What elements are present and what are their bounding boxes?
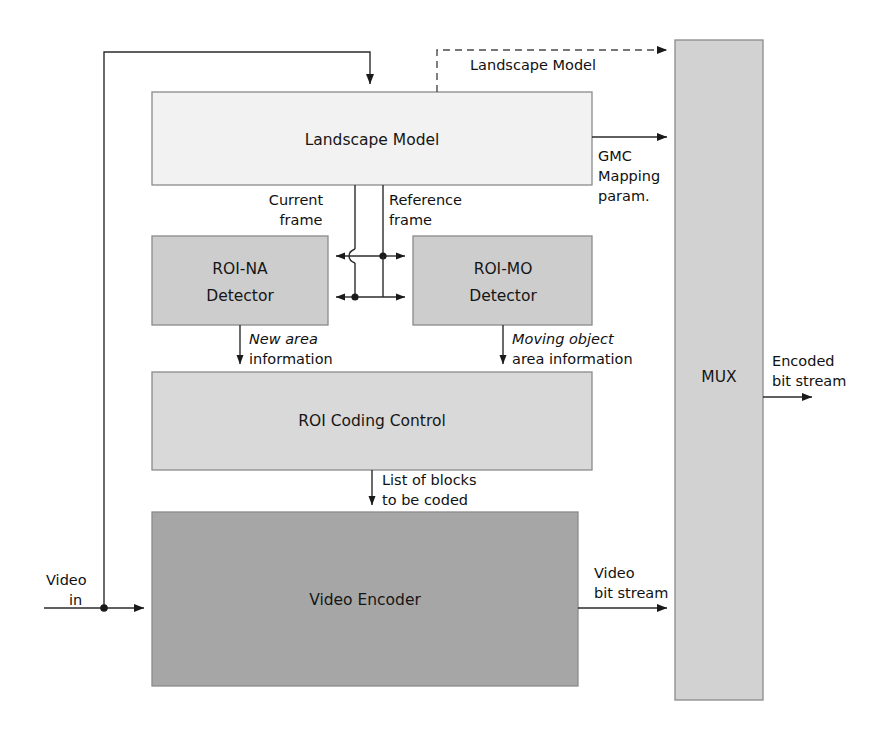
edge-label-new-area-rest: information — [249, 351, 333, 367]
roi-na-detector-label-line2: Detector — [206, 287, 274, 305]
roi-mo-detector-label-line2: Detector — [469, 287, 537, 305]
edge-label-gmc-line3: param. — [598, 188, 650, 204]
roi-coding-control-label: ROI Coding Control — [298, 412, 446, 430]
junction-lower-bus — [351, 293, 358, 300]
edge-label-video-in-line2: in — [69, 592, 82, 608]
edge-label-current-frame-line1: Current — [269, 192, 324, 208]
edge-label-gmc-line2: Mapping — [598, 168, 660, 184]
edge-label-list-of-blocks-line2: to be coded — [382, 492, 468, 508]
edge-label-video-bit-stream-line2: bit stream — [594, 585, 668, 601]
block-mux[interactable]: MUX — [675, 40, 763, 700]
block-diagram-canvas: Landscape Model ROI-NA Detector ROI-MO D… — [0, 0, 886, 739]
edge-label-video-bit-stream-line1: Video — [594, 565, 635, 581]
block-video-encoder[interactable]: Video Encoder — [152, 512, 578, 686]
edge-label-encoded-bit-stream-line1: Encoded — [772, 353, 835, 369]
roi-mo-detector-label-line1: ROI-MO — [474, 260, 533, 278]
edge-label-reference-frame-line2: frame — [389, 212, 432, 228]
mux-label: MUX — [701, 368, 737, 386]
junction-video-in — [100, 604, 108, 612]
edge-label-moving-object-emph: Moving object — [512, 331, 615, 347]
edge-label-current-frame-line2: frame — [280, 212, 323, 228]
block-roi-coding-control[interactable]: ROI Coding Control — [152, 372, 592, 470]
edge-label-new-area-emph: New area — [249, 331, 318, 347]
block-landscape-model[interactable]: Landscape Model — [152, 92, 592, 185]
edge-label-video-in-line1: Video — [46, 572, 87, 588]
edge-label-encoded-bit-stream-line2: bit stream — [772, 373, 846, 389]
block-roi-mo-detector[interactable]: ROI-MO Detector — [413, 236, 592, 325]
video-encoder-label: Video Encoder — [309, 591, 421, 609]
landscape-model-label: Landscape Model — [305, 131, 440, 149]
edge-label-moving-object-rest: area information — [512, 351, 633, 367]
roi-na-detector-label-line1: ROI-NA — [212, 260, 268, 278]
block-roi-na-detector[interactable]: ROI-NA Detector — [152, 236, 328, 325]
edge-label-reference-frame-line1: Reference — [389, 192, 462, 208]
edge-label-landscape-model-to-mux: Landscape Model — [470, 57, 596, 73]
edge-label-list-of-blocks-line1: List of blocks — [382, 472, 477, 488]
edge-label-gmc-line1: GMC — [598, 148, 632, 164]
diagram-svg: Landscape Model ROI-NA Detector ROI-MO D… — [0, 0, 886, 739]
